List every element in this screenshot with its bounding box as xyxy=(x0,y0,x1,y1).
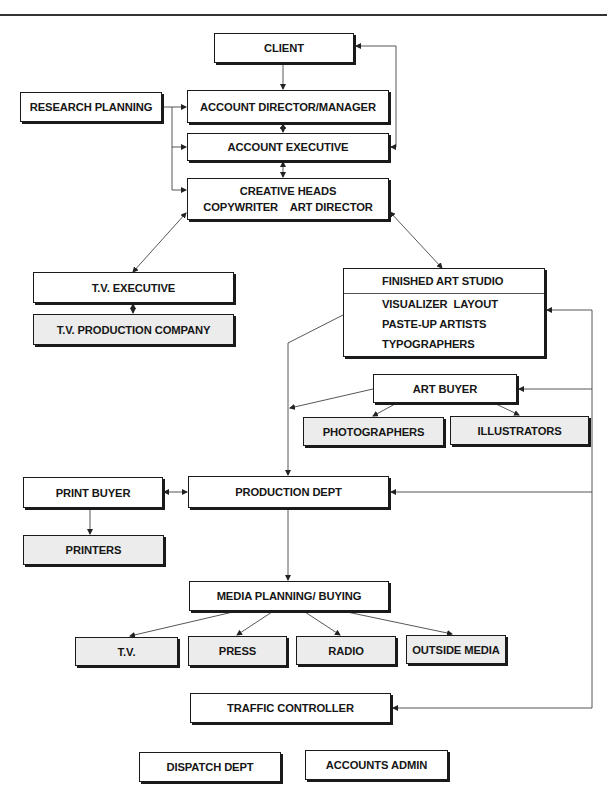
media-tv-box: T.V. xyxy=(75,637,178,666)
media-outside-label: OUTSIDE MEDIA xyxy=(412,644,500,656)
research-planning-label: RESEARCH PLANNING xyxy=(30,101,153,113)
research-planning-box: RESEARCH PLANNING xyxy=(20,92,162,122)
photographers-label: PHOTOGRAPHERS xyxy=(323,426,425,438)
account-executive-label: ACCOUNT EXECUTIVE xyxy=(228,141,349,153)
art-buyer-label: ART BUYER xyxy=(413,383,477,395)
illustrators-label: ILLUSTRATORS xyxy=(477,425,561,437)
studio-row-paste-up: PASTE-UP ARTISTS xyxy=(344,314,544,334)
creative-heads-label: CREATIVE HEADS xyxy=(240,183,337,199)
production-dept-label: PRODUCTION DEPT xyxy=(235,486,342,498)
traffic-controller-box: TRAFFIC CONTROLLER xyxy=(190,693,391,723)
print-buyer-box: PRINT BUYER xyxy=(23,477,163,508)
media-press-label: PRESS xyxy=(219,645,256,657)
creative-roles-label: COPYWRITER ART DIRECTOR xyxy=(203,199,373,215)
media-press-box: PRESS xyxy=(188,636,287,666)
client-label: CLIENT xyxy=(264,42,304,54)
production-dept-box: PRODUCTION DEPT xyxy=(188,476,389,508)
media-planning-label: MEDIA PLANNING/ BUYING xyxy=(217,590,362,602)
media-planning-box: MEDIA PLANNING/ BUYING xyxy=(189,581,389,611)
finished-art-studio-box: FINISHED ART STUDIO VISUALIZER LAYOUT PA… xyxy=(343,268,545,357)
creative-heads-box: CREATIVE HEADS COPYWRITER ART DIRECTOR xyxy=(187,178,389,220)
tv-production-company-box: T.V. PRODUCTION COMPANY xyxy=(33,314,234,345)
accounts-admin-label: ACCOUNTS ADMIN xyxy=(326,759,427,771)
account-executive-box: ACCOUNT EXECUTIVE xyxy=(187,133,389,161)
account-director-box: ACCOUNT DIRECTOR/MANAGER xyxy=(187,90,389,123)
accounts-admin-box: ACCOUNTS ADMIN xyxy=(305,750,448,780)
tv-executive-label: T.V. EXECUTIVE xyxy=(92,282,175,294)
tv-production-company-label: T.V. PRODUCTION COMPANY xyxy=(57,324,211,336)
art-buyer-box: ART BUYER xyxy=(373,374,517,403)
media-outside-box: OUTSIDE MEDIA xyxy=(406,635,506,664)
media-tv-label: T.V. xyxy=(118,646,136,658)
dispatch-dept-box: DISPATCH DEPT xyxy=(139,752,281,782)
traffic-controller-label: TRAFFIC CONTROLLER xyxy=(227,702,354,714)
printers-label: PRINTERS xyxy=(66,544,122,556)
photographers-box: PHOTOGRAPHERS xyxy=(303,417,444,446)
illustrators-box: ILLUSTRATORS xyxy=(450,416,589,445)
studio-row-typographers: TYPOGRAPHERS xyxy=(344,334,544,354)
dispatch-dept-label: DISPATCH DEPT xyxy=(166,761,253,773)
media-radio-box: RADIO xyxy=(296,636,396,665)
printers-box: PRINTERS xyxy=(23,535,164,565)
studio-row-visualizer: VISUALIZER LAYOUT xyxy=(344,294,544,314)
tv-executive-box: T.V. EXECUTIVE xyxy=(33,272,234,303)
media-radio-label: RADIO xyxy=(328,645,364,657)
client-box: CLIENT xyxy=(214,33,354,63)
print-buyer-label: PRINT BUYER xyxy=(56,487,131,499)
finished-art-studio-header: FINISHED ART STUDIO xyxy=(344,269,544,294)
account-director-label: ACCOUNT DIRECTOR/MANAGER xyxy=(200,101,376,113)
